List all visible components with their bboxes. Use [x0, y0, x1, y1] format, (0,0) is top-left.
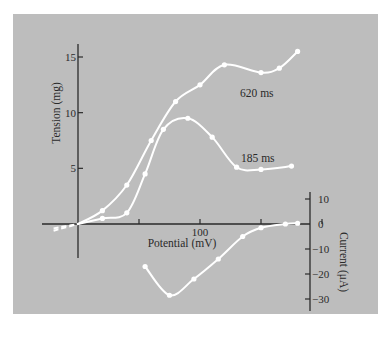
data-point: [185, 116, 190, 121]
data-point: [258, 167, 263, 172]
data-point: [277, 66, 282, 71]
chart: 100Potential (mV)51015Tension (mg)100−10…: [0, 0, 388, 349]
tension-tick-label: 10: [65, 107, 77, 119]
data-point: [240, 234, 245, 239]
data-point: [210, 135, 215, 140]
current-tick-label: 0: [318, 218, 324, 230]
data-point: [222, 62, 227, 67]
data-point: [258, 225, 263, 230]
data-point: [124, 210, 129, 215]
data-point: [100, 216, 105, 221]
data-point: [295, 221, 300, 226]
data-point: [216, 256, 221, 261]
current-tick-label: −20: [312, 268, 330, 280]
data-point: [258, 70, 263, 75]
current-tick-label: 10: [318, 193, 330, 205]
data-point: [289, 164, 294, 169]
data-point: [143, 171, 148, 176]
current-tick-label: −10: [312, 243, 330, 255]
data-point: [143, 264, 148, 269]
data-point: [100, 208, 105, 213]
data-point: [124, 182, 129, 187]
data-point: [167, 293, 172, 298]
data-point: [295, 49, 300, 54]
annotation-620ms: 620 ms: [240, 87, 274, 99]
tension-tick-label: 15: [65, 51, 77, 63]
annotation-185ms: 185 ms: [241, 152, 275, 164]
data-point: [191, 276, 196, 281]
data-point: [173, 99, 178, 104]
current-tick-label: −30: [312, 293, 330, 305]
tension-tick-label: 5: [71, 162, 77, 174]
data-point: [234, 165, 239, 170]
data-point: [161, 127, 166, 132]
data-point: [197, 82, 202, 87]
tension-axis-label: Tension (mg): [50, 82, 63, 144]
data-point: [149, 138, 154, 143]
data-point: [283, 221, 288, 226]
current-axis-label: Current (μA): [337, 232, 350, 292]
x-axis-label: Potential (mV): [148, 237, 217, 250]
